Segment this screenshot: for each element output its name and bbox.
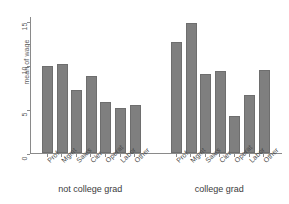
y-tick-label: 15 xyxy=(21,20,28,34)
bar xyxy=(71,90,82,153)
plot-area xyxy=(30,17,282,154)
bar xyxy=(171,42,182,153)
bar xyxy=(42,66,53,153)
group-label: college grad xyxy=(159,184,279,194)
bar xyxy=(86,76,97,153)
bar xyxy=(215,71,226,153)
bar xyxy=(57,64,68,153)
y-axis-title: mean of wage xyxy=(23,27,30,97)
y-tick-label: 0 xyxy=(21,152,28,166)
group-label: not college grad xyxy=(30,184,150,194)
bar xyxy=(100,102,111,153)
y-tick-label: 5 xyxy=(21,108,28,122)
chart-screenshot: mean of wage 0 5 10 15 ProfMgmtSalesCler… xyxy=(0,0,289,204)
bar xyxy=(200,74,211,153)
bar xyxy=(229,116,240,153)
bar xyxy=(186,23,197,153)
y-tick-label: 10 xyxy=(21,64,28,78)
bar xyxy=(259,70,270,153)
